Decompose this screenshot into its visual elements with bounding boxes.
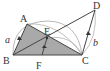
label-vector-a: a <box>5 34 10 45</box>
label-b-point: B <box>3 55 10 66</box>
label-vector-b: b <box>93 37 98 48</box>
label-c-point: C <box>82 55 89 66</box>
geometry-diagram: A B C D E F a b <box>0 0 110 71</box>
label-d-point: D <box>93 0 100 11</box>
label-e-point: E <box>44 26 50 37</box>
label-a-point: A <box>20 13 28 24</box>
point-e-marker <box>46 37 48 39</box>
label-f-point: F <box>36 60 42 71</box>
